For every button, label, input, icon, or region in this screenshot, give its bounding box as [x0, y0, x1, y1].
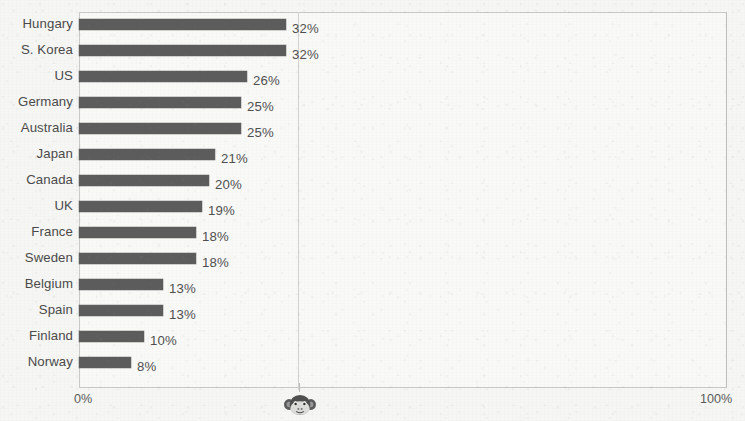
- bar-category-label: Australia: [0, 120, 73, 135]
- bar: [79, 175, 209, 186]
- bar-category-label: Sweden: [0, 250, 73, 265]
- bar-row: Canada20%: [0, 168, 745, 194]
- bar-category-label: UK: [0, 198, 73, 213]
- bar-value-label: 18%: [202, 229, 229, 244]
- bar-track: 32%: [79, 19, 727, 31]
- bar: [79, 279, 163, 290]
- bar-category-label: Norway: [0, 354, 73, 369]
- bar-value-label: 25%: [247, 99, 274, 114]
- bar-value-label: 20%: [215, 177, 242, 192]
- bar-category-label: Hungary: [0, 16, 73, 31]
- bar-row: Finland10%: [0, 324, 745, 350]
- bar-row: Japan21%: [0, 142, 745, 168]
- bar-value-label: 10%: [150, 333, 177, 348]
- x-axis-tick-100: 100%: [700, 392, 732, 406]
- bar-row: Australia25%: [0, 116, 745, 142]
- bar-category-label: Japan: [0, 146, 73, 161]
- bar: [79, 45, 286, 56]
- bar-track: 13%: [79, 305, 727, 317]
- bar: [79, 227, 196, 238]
- bar-row: UK19%: [0, 194, 745, 220]
- bar-category-label: S. Korea: [0, 42, 73, 57]
- x-axis-tick-mark: [299, 383, 300, 392]
- bar-value-label: 8%: [137, 359, 156, 374]
- bar-value-label: 18%: [202, 255, 229, 270]
- bar-row: Hungary32%: [0, 12, 745, 38]
- bar-value-label: 21%: [221, 151, 248, 166]
- bar-value-label: 19%: [208, 203, 235, 218]
- bar-row: Norway8%: [0, 350, 745, 376]
- chart-screenshot: Hungary32%S. Korea32%US26%Germany25%Aust…: [0, 0, 745, 421]
- bar: [79, 71, 247, 82]
- bar-category-label: Spain: [0, 302, 73, 317]
- bar-track: 26%: [79, 71, 727, 83]
- bar-track: 21%: [79, 149, 727, 161]
- bar-track: 19%: [79, 201, 727, 213]
- bar-track: 8%: [79, 357, 727, 369]
- bar-row: Sweden18%: [0, 246, 745, 272]
- bar: [79, 123, 241, 134]
- bar-value-label: 32%: [292, 47, 319, 62]
- bar-category-label: Canada: [0, 172, 73, 187]
- bar-row: Spain13%: [0, 298, 745, 324]
- bar-category-label: Belgium: [0, 276, 73, 291]
- bar-row: Belgium13%: [0, 272, 745, 298]
- bar-row: Germany25%: [0, 90, 745, 116]
- bar-value-label: 13%: [169, 281, 196, 296]
- bar-category-label: Finland: [0, 328, 73, 343]
- monkey-face-icon: [283, 392, 317, 418]
- bar-value-label: 13%: [169, 307, 196, 322]
- bar: [79, 201, 202, 212]
- bar-rows: Hungary32%S. Korea32%US26%Germany25%Aust…: [0, 12, 745, 376]
- bar-track: 20%: [79, 175, 727, 187]
- bar-value-label: 26%: [253, 73, 280, 88]
- bar-category-label: US: [0, 68, 73, 83]
- bar-row: S. Korea32%: [0, 38, 745, 64]
- bar-track: 18%: [79, 253, 727, 265]
- bar-track: 25%: [79, 123, 727, 135]
- bar-category-label: France: [0, 224, 73, 239]
- bar: [79, 253, 196, 264]
- bar-track: 13%: [79, 279, 727, 291]
- bar: [79, 357, 131, 368]
- x-axis-tick-0: 0%: [74, 392, 92, 406]
- bar-track: 32%: [79, 45, 727, 57]
- bar-track: 10%: [79, 331, 727, 343]
- bar: [79, 19, 286, 30]
- bar: [79, 331, 144, 342]
- bar-track: 18%: [79, 227, 727, 239]
- bar-track: 25%: [79, 97, 727, 109]
- bar-row: US26%: [0, 64, 745, 90]
- bar-value-label: 32%: [292, 21, 319, 36]
- bar-category-label: Germany: [0, 94, 73, 109]
- bar: [79, 97, 241, 108]
- bar: [79, 305, 163, 316]
- bar-value-label: 25%: [247, 125, 274, 140]
- bar-row: France18%: [0, 220, 745, 246]
- bar: [79, 149, 215, 160]
